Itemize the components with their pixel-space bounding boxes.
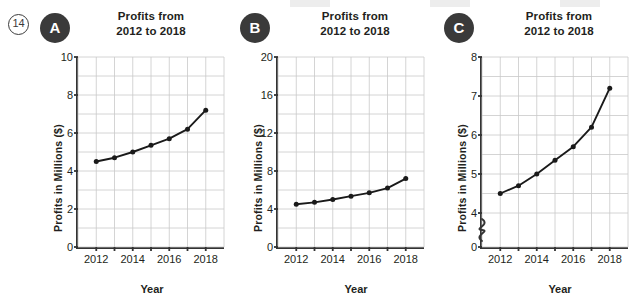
question-number: 14 — [8, 14, 29, 35]
chart-title-a: Profits from 2012 to 2018 — [76, 9, 226, 38]
data-point — [607, 86, 612, 91]
x-axis-tick-label: 2012 — [276, 253, 316, 265]
data-point — [349, 194, 354, 199]
plot-area-b: 0481216202012201420162018 — [276, 57, 424, 249]
y-axis-tick-label: 0 — [47, 241, 73, 253]
worksheet-page: 14 A Profits from 2012 to 2018 Profits i… — [0, 0, 636, 299]
data-point — [498, 191, 503, 196]
y-axis-tick-label: 5 — [451, 168, 477, 180]
chart-panel-b: B Profits from 2012 to 2018 Profits in M… — [232, 0, 432, 299]
data-point — [516, 183, 521, 188]
x-axis-label-c: Year — [460, 283, 636, 295]
y-axis-tick-label: 4 — [451, 207, 477, 219]
x-axis-tick-label: 2014 — [517, 253, 557, 265]
data-point — [330, 197, 335, 202]
chart-title-line1: Profits from — [118, 10, 184, 22]
data-point — [167, 136, 172, 141]
chart-title-line2: 2012 to 2018 — [320, 25, 390, 37]
data-point — [367, 190, 372, 195]
y-axis-tick-label: 8 — [47, 89, 73, 101]
y-axis-tick-label: 0 — [451, 241, 477, 253]
data-point — [312, 200, 317, 205]
y-axis-tick-label: 8 — [247, 165, 273, 177]
y-axis-tick-label: 6 — [47, 127, 73, 139]
chart-title-c: Profits from 2012 to 2018 — [484, 9, 634, 38]
data-point — [149, 143, 154, 148]
x-axis-tick-label: 2016 — [149, 253, 189, 265]
y-axis-tick-label: 0 — [247, 241, 273, 253]
data-point — [385, 186, 390, 191]
x-axis-tick-label: 2018 — [186, 253, 226, 265]
data-point — [294, 202, 299, 207]
y-axis-label-a: Profits in Millions ($) — [52, 124, 64, 232]
data-point — [534, 172, 539, 177]
chart-panel-c: C Profits from 2012 to 2018 Profits in M… — [436, 0, 636, 299]
x-axis-tick-label: 2014 — [313, 253, 353, 265]
data-point — [94, 159, 99, 164]
y-axis-tick-label: 7 — [451, 90, 477, 102]
chart-title-line2: 2012 to 2018 — [116, 25, 186, 37]
y-axis-tick-label: 4 — [247, 203, 273, 215]
y-axis-tick-label: 12 — [247, 127, 273, 139]
y-axis-tick-label: 4 — [47, 165, 73, 177]
y-axis-tick-label: 10 — [47, 51, 73, 63]
x-axis-tick-label: 2012 — [480, 253, 520, 265]
data-point — [203, 108, 208, 113]
panel-badge-a: A — [40, 13, 70, 43]
chart-title-b: Profits from 2012 to 2018 — [280, 9, 430, 38]
x-axis-tick-label: 2014 — [113, 253, 153, 265]
x-axis-tick-label: 2016 — [553, 253, 593, 265]
x-axis-tick-label: 2018 — [386, 253, 426, 265]
x-axis-tick-label: 2016 — [349, 253, 389, 265]
data-point — [553, 158, 558, 163]
chart-svg-b — [278, 57, 424, 247]
data-point — [571, 144, 576, 149]
chart-title-line1: Profits from — [526, 10, 592, 22]
data-point — [112, 155, 117, 160]
data-point — [130, 150, 135, 155]
plot-area-c: 0456782012201420162018 — [480, 57, 628, 249]
panel-badge-b: B — [240, 13, 270, 43]
chart-panel-a: A Profits from 2012 to 2018 Profits in M… — [28, 0, 228, 299]
y-axis-tick-label: 16 — [247, 89, 273, 101]
chart-title-line2: 2012 to 2018 — [524, 25, 594, 37]
y-axis-tick-label: 2 — [47, 203, 73, 215]
data-point — [589, 125, 594, 130]
y-axis-tick-label: 8 — [451, 51, 477, 63]
data-point — [403, 176, 408, 181]
chart-svg-c — [482, 57, 628, 247]
data-point — [185, 127, 190, 132]
y-axis-tick-label: 20 — [247, 51, 273, 63]
x-axis-label-a: Year — [52, 283, 252, 295]
chart-svg-a — [78, 57, 224, 247]
plot-area-a: 02468102012201420162018 — [76, 57, 224, 249]
x-axis-tick-label: 2012 — [76, 253, 116, 265]
panel-badge-c: C — [444, 13, 474, 43]
chart-title-line1: Profits from — [322, 10, 388, 22]
y-axis-tick-label: 6 — [451, 129, 477, 141]
x-axis-label-b: Year — [256, 283, 456, 295]
y-axis-label-b: Profits in Millions ($) — [252, 124, 264, 232]
x-axis-tick-label: 2018 — [590, 253, 630, 265]
